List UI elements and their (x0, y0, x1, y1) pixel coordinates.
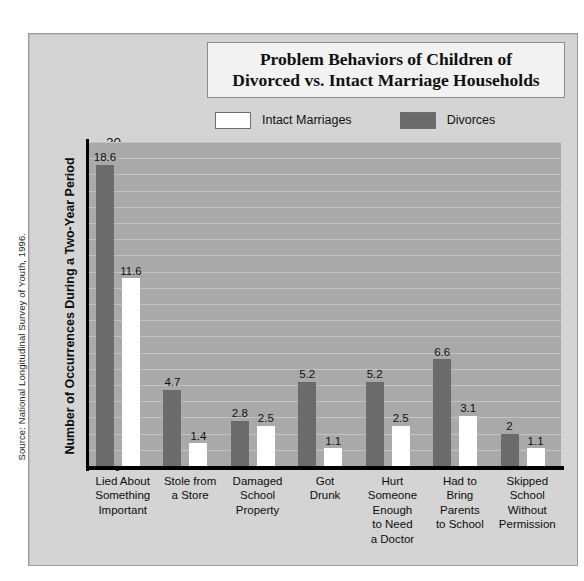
bar-group: 18.611.6 (89, 142, 156, 466)
bar-value-label: 1.4 (190, 431, 206, 443)
bar-value-label: 18.6 (94, 152, 116, 164)
bar-intact-marriages[interactable]: 1.1 (324, 448, 342, 466)
bar-group: 5.22.5 (359, 142, 426, 466)
bar-intact-marriages[interactable]: 1.1 (527, 448, 545, 466)
bar-divorces[interactable]: 5.2 (366, 382, 384, 466)
bar-value-label: 2.5 (393, 413, 409, 425)
bar-value-label: 6.6 (434, 347, 450, 359)
x-label-line: Skipped (506, 475, 548, 487)
bar-intact-marriages[interactable]: 1.4 (189, 443, 207, 466)
x-label-line: Got (316, 475, 335, 487)
x-label-line: Important (98, 504, 147, 516)
bar-group: 4.71.4 (156, 142, 223, 466)
bar-divorces[interactable]: 5.2 (298, 382, 316, 466)
bar-group: 5.21.1 (291, 142, 358, 466)
x-label-line: Had to (443, 475, 477, 487)
bar-value-label: 5.2 (367, 369, 383, 381)
bar-value-label: 3.1 (460, 403, 476, 415)
x-axis-category-label: HurtSomeoneEnoughto Needa Doctor (359, 474, 426, 546)
x-label-line: Lied About (96, 475, 150, 487)
x-label-line: Something (95, 489, 150, 501)
x-axis-category-labels: Lied AboutSomethingImportantStole froma … (89, 474, 561, 560)
bar-divorces[interactable]: 2 (501, 434, 519, 466)
x-label-line: to School (436, 518, 484, 530)
x-axis-line (86, 466, 564, 470)
bars-layer: 18.611.64.71.42.82.55.21.15.22.56.63.121… (89, 142, 561, 466)
bar-value-label: 2.8 (232, 408, 248, 420)
x-label-line: Hurt (382, 475, 404, 487)
bar-value-label: 5.2 (299, 369, 315, 381)
x-axis-category-label: SkippedSchoolWithoutPermission (494, 474, 561, 532)
x-axis-category-label: DamagedSchoolProperty (224, 474, 291, 517)
bar-group: 2.82.5 (224, 142, 291, 466)
x-label-line: to Need (372, 518, 412, 530)
x-axis-category-label: Stole froma Store (156, 474, 223, 503)
x-label-line: Drunk (310, 489, 341, 501)
bar-divorces[interactable]: 6.6 (433, 359, 451, 466)
x-label-line: Property (236, 504, 279, 516)
bar-value-label: 11.6 (120, 266, 142, 278)
bar-intact-marriages[interactable]: 3.1 (459, 416, 477, 466)
x-label-line: Parents (440, 504, 480, 516)
bar-group: 21.1 (494, 142, 561, 466)
x-label-line: Enough (373, 504, 413, 516)
bar-intact-marriages[interactable]: 2.5 (257, 426, 275, 467)
figure-panel: Problem Behaviors of Children of Divorce… (28, 33, 578, 566)
bar-value-label: 2 (506, 421, 512, 433)
x-label-line: School (240, 489, 275, 501)
x-label-line: Someone (368, 489, 417, 501)
bar-value-label: 1.1 (325, 436, 341, 448)
bar-value-label: 1.1 (528, 436, 544, 448)
bar-group: 6.63.1 (426, 142, 493, 466)
x-axis-category-label: GotDrunk (291, 474, 358, 503)
bar-intact-marriages[interactable]: 2.5 (392, 426, 410, 467)
x-axis-category-label: Lied AboutSomethingImportant (89, 474, 156, 517)
bar-value-label: 4.7 (164, 377, 180, 389)
source-note: Source: National Longitudinal Survey of … (16, 211, 27, 461)
x-label-line: a Store (172, 489, 209, 501)
bar-divorces[interactable]: 4.7 (163, 390, 181, 466)
x-label-line: Damaged (233, 475, 283, 487)
x-label-line: Stole from (164, 475, 216, 487)
bar-value-label: 2.5 (258, 413, 274, 425)
bar-intact-marriages[interactable]: 11.6 (122, 278, 140, 466)
x-label-line: Bring (446, 489, 473, 501)
x-label-line: Permission (499, 518, 556, 530)
bar-divorces[interactable]: 18.6 (96, 165, 114, 466)
bar-divorces[interactable]: 2.8 (231, 421, 249, 466)
x-label-line: Without (508, 504, 547, 516)
x-label-line: a Doctor (371, 533, 414, 545)
x-label-line: School (510, 489, 545, 501)
x-axis-category-label: Had toBringParentsto School (426, 474, 493, 532)
